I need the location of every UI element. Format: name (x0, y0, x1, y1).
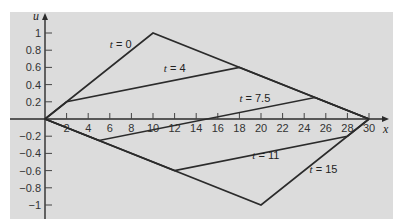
curve-label-t0: t = 0 (110, 38, 132, 50)
y-tick-label: 0.2 (26, 96, 41, 108)
curve-label-t15: t = 15 (310, 163, 338, 175)
curve-labels: t = 0t = 4t = 7.5t = 11t = 15 (110, 38, 338, 175)
x-tick-label: 16 (212, 122, 224, 134)
y-axis-label: u (33, 9, 39, 23)
y-tick-label: 0.6 (26, 61, 41, 73)
x-axis-label: x (382, 122, 389, 136)
y-tick-label: −1 (28, 199, 41, 211)
y-axis-arrow-icon (42, 13, 48, 20)
y-tick-label: −0.4 (19, 147, 41, 159)
y-tick-label: 0.4 (26, 79, 41, 91)
x-tick-label: 24 (298, 122, 310, 134)
axes: xu2468101214161820222426283010.80.60.40.… (10, 9, 389, 219)
y-tick-label: −0.6 (19, 165, 41, 177)
x-tick-label: 30 (363, 122, 375, 134)
curve-label-t11: t = 11 (252, 149, 279, 161)
x-tick-label: 20 (255, 122, 267, 134)
x-tick-label: 18 (233, 122, 245, 134)
y-tick-label: −0.2 (19, 130, 41, 142)
chart-canvas: xu2468101214161820222426283010.80.60.40.… (0, 0, 403, 223)
x-tick-label: 4 (85, 122, 91, 134)
y-tick-label: 1 (35, 27, 41, 39)
curve-t0 (45, 33, 369, 119)
y-tick-label: 0.8 (26, 44, 41, 56)
curve-label-t4: t = 4 (164, 62, 186, 74)
curve-t4 (45, 67, 369, 119)
x-tick-label: 8 (128, 122, 134, 134)
x-tick-label: 6 (107, 122, 113, 134)
x-tick-label: 26 (320, 122, 332, 134)
x-tick-label: 14 (190, 122, 202, 134)
y-tick-label: −0.8 (19, 182, 41, 194)
x-tick-label: 22 (276, 122, 288, 134)
curve-label-t75: t = 7.5 (239, 92, 270, 104)
x-tick-label: 10 (147, 122, 159, 134)
